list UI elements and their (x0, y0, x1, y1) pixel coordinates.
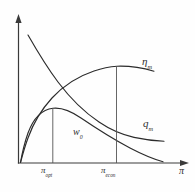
pi-econ-subscript: econ (106, 172, 116, 178)
q-symbol: q (143, 117, 149, 129)
w-symbol: w (73, 126, 80, 137)
chart-figure: ηт qт w0 π πopt πecon (0, 0, 195, 192)
pi-econ-tick-label: πecon (101, 166, 115, 177)
pi-opt-tick-label: πopt (41, 166, 52, 177)
eta-series-label: ηт (142, 56, 152, 70)
pi-econ-symbol: π (101, 165, 106, 175)
chart-canvas (0, 0, 195, 192)
pi-opt-symbol: π (41, 165, 46, 175)
pi-opt-subscript: opt (46, 172, 53, 178)
q-series-label: qт (143, 118, 153, 132)
q-subscript: т (149, 125, 154, 132)
y-axis-arrow-icon (15, 14, 21, 23)
eta-curve (21, 66, 155, 162)
eta-subscript: т (147, 63, 152, 70)
w0-series-label: w0 (73, 127, 83, 140)
w-subscript: 0 (80, 134, 83, 140)
x-axis-label: π (179, 166, 184, 176)
